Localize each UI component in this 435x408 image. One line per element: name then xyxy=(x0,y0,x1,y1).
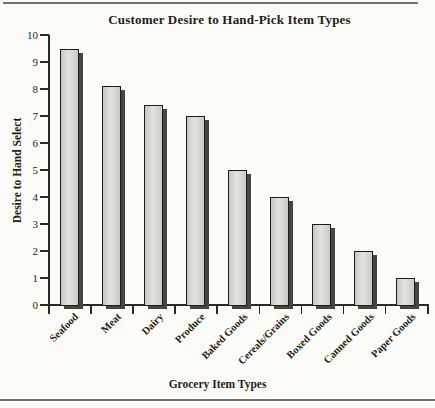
y-tick xyxy=(40,34,49,36)
y-tick xyxy=(40,196,49,198)
y-tick xyxy=(40,223,49,225)
y-tick xyxy=(40,61,49,63)
y-tick-label: 2 xyxy=(8,244,38,259)
x-tick xyxy=(174,304,176,314)
x-axis-title: Grocery Item Types xyxy=(0,378,435,390)
bar-boxed-goods xyxy=(312,224,331,306)
y-tick xyxy=(40,88,49,90)
plot-area: 012345678910SeafoodMeatDairyProduceBaked… xyxy=(0,0,435,408)
x-tick xyxy=(343,304,345,314)
category-label: Meat xyxy=(99,311,123,335)
scanned-chart-page: Customer Desire to Hand-Pick Item Types … xyxy=(0,0,435,408)
category-label: Dairy xyxy=(139,311,165,337)
y-tick xyxy=(40,277,49,279)
bar-produce xyxy=(186,116,205,306)
y-tick-label: 10 xyxy=(8,28,38,43)
category-label: Seafood xyxy=(48,311,81,344)
bar-baked-goods xyxy=(228,170,247,306)
bar-meat xyxy=(102,86,121,306)
x-tick xyxy=(427,304,429,314)
y-tick xyxy=(40,142,49,144)
bottom-border-line xyxy=(0,399,435,401)
y-tick xyxy=(40,115,49,117)
y-tick-label: 9 xyxy=(8,55,38,70)
bar-paper-goods xyxy=(396,278,415,306)
y-tick-label: 0 xyxy=(8,298,38,313)
y-tick-label: 7 xyxy=(8,109,38,124)
bar-seafood xyxy=(60,49,79,307)
x-tick xyxy=(132,304,134,314)
y-tick-label: 6 xyxy=(8,136,38,151)
y-tick-label: 3 xyxy=(8,217,38,232)
bar-dairy xyxy=(144,105,163,306)
y-tick-label: 1 xyxy=(8,271,38,286)
x-tick xyxy=(259,304,261,314)
y-tick xyxy=(40,250,49,252)
x-tick xyxy=(48,304,50,314)
bar-canned-goods xyxy=(354,251,373,306)
x-tick xyxy=(385,304,387,314)
y-tick-label: 5 xyxy=(8,163,38,178)
y-tick xyxy=(40,169,49,171)
y-tick-label: 8 xyxy=(8,82,38,97)
bar-cereals-grains xyxy=(270,197,289,306)
x-tick xyxy=(90,304,92,314)
category-label: Produce xyxy=(173,311,207,345)
x-tick xyxy=(216,304,218,314)
y-tick-label: 4 xyxy=(8,190,38,205)
x-tick xyxy=(301,304,303,314)
